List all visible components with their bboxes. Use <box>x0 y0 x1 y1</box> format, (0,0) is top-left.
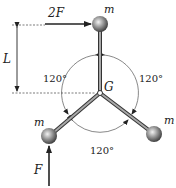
angle-arc-upper-left <box>62 55 96 114</box>
mass-ball-top <box>92 16 108 32</box>
diagram-svg: 2F F L G m m m 120° 120° 120° <box>0 0 176 188</box>
label-mass-top: m <box>104 3 114 16</box>
angle-label-upper-right: 120° <box>139 73 163 84</box>
label-center-g: G <box>104 80 114 94</box>
label-length: L <box>2 52 11 66</box>
center-of-mass-point <box>98 91 103 96</box>
label-f: F <box>33 163 43 177</box>
angle-arc-bottom <box>72 120 128 132</box>
angle-label-upper-left: 120° <box>43 73 67 84</box>
rods <box>53 28 150 133</box>
mass-ball-right <box>146 126 162 142</box>
angle-label-bottom: 120° <box>90 145 114 156</box>
label-mass-left: m <box>34 116 44 129</box>
label-2f: 2F <box>47 6 65 20</box>
label-mass-right: m <box>164 114 174 127</box>
mass-ball-left <box>41 128 57 144</box>
rigid-body-diagram: 2F F L G m m m 120° 120° 120° <box>0 0 176 188</box>
